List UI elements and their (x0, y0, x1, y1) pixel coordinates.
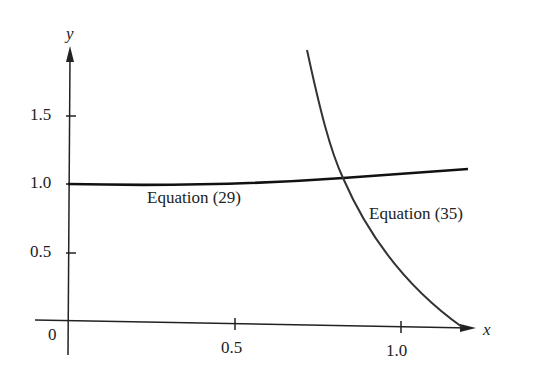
xtick-label-1.0: 1.0 (386, 341, 407, 361)
xtick-label-0.5: 0.5 (221, 338, 242, 358)
series-label-equation-29: Equation (29) (147, 188, 241, 208)
x-axis-arrow (460, 324, 476, 332)
series-label-equation-35: Equation (35) (369, 204, 463, 224)
y-axis (68, 58, 70, 355)
ytick-label-1.0: 1.0 (30, 173, 51, 193)
ytick-label-1.5: 1.5 (30, 105, 51, 125)
x-axis-label: x (483, 320, 491, 340)
ytick-label-0.5: 0.5 (30, 242, 51, 262)
series-equation-29 (68, 169, 468, 185)
series-equation-35 (307, 50, 462, 327)
y-axis-label: y (66, 24, 74, 44)
y-axis-arrow (66, 46, 74, 62)
chart-canvas (0, 0, 539, 379)
origin-label: 0 (48, 325, 57, 345)
x-axis (35, 320, 470, 328)
